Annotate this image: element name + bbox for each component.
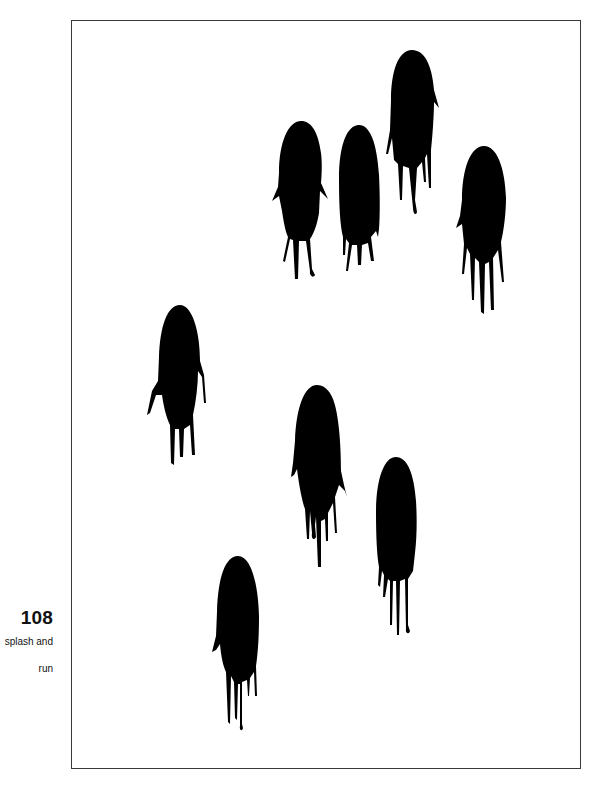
ink-figure xyxy=(376,457,417,635)
ink-figure xyxy=(291,385,347,567)
caption-line-2: run xyxy=(39,663,53,674)
ink-figure xyxy=(456,146,506,314)
ink-splash-illustration xyxy=(0,0,596,786)
ink-figure xyxy=(147,305,206,465)
ink-figure xyxy=(272,121,328,279)
caption-line-1: splash and xyxy=(5,636,53,647)
ink-figure xyxy=(339,125,380,271)
ink-figure xyxy=(386,50,439,214)
ink-figure xyxy=(212,556,259,730)
page-number: 108 xyxy=(21,607,53,629)
